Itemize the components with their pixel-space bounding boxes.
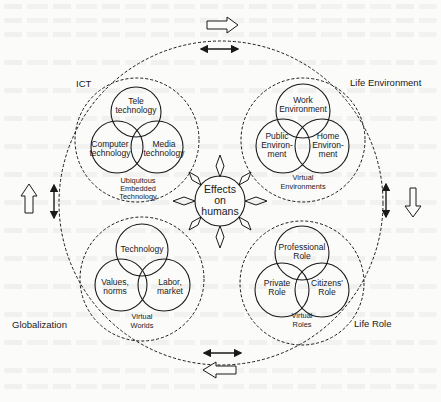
venn-label: Environment bbox=[279, 104, 327, 114]
venn-label: Role bbox=[268, 287, 286, 297]
ict-venn: Tele technology Computer technology Medi… bbox=[89, 87, 185, 201]
diamond-icon bbox=[245, 197, 267, 205]
venn-label: technology bbox=[143, 148, 185, 158]
flow-arrow-up-icon bbox=[21, 184, 37, 213]
venn-label: ment bbox=[268, 149, 288, 159]
venn-label: market bbox=[157, 286, 184, 296]
flow-arrow-down-icon bbox=[405, 188, 421, 217]
diamond-icon bbox=[189, 172, 201, 185]
label-globalization: Globalization bbox=[12, 319, 67, 330]
diamond-icon bbox=[216, 155, 224, 177]
venn-label: Role bbox=[318, 287, 336, 297]
globalization-venn: Technology Values, norms Labor, market V… bbox=[95, 224, 190, 330]
label-life-role: Life Role bbox=[354, 318, 392, 329]
diamond-icon bbox=[216, 226, 224, 248]
venn-label: Technology bbox=[120, 244, 164, 254]
center-label: humans bbox=[201, 205, 238, 217]
label-life-environment: Life Environment bbox=[350, 77, 422, 88]
group-footer: Environments bbox=[280, 182, 325, 191]
venn-label: Role bbox=[293, 251, 311, 261]
diamond-icon bbox=[239, 172, 251, 185]
diamond-icon bbox=[189, 217, 201, 230]
venn-label: technology bbox=[115, 105, 157, 115]
scanned-page: ICT Life Environment Globalization Life … bbox=[0, 0, 441, 402]
effects-on-humans-diagram: ICT Life Environment Globalization Life … bbox=[0, 0, 441, 402]
group-footer: Virtual bbox=[292, 311, 313, 320]
diamond-icon bbox=[239, 217, 251, 230]
venn-label: technology bbox=[89, 148, 131, 158]
venn-label: norms bbox=[103, 286, 127, 296]
life-role-venn: Professional Role Private Role Citizens'… bbox=[255, 226, 349, 329]
flow-arrow-right-icon bbox=[207, 17, 238, 33]
group-footer: Virtual bbox=[132, 312, 153, 321]
group-footer: Roles bbox=[293, 320, 312, 329]
life-environment-venn: Work Environment Public Environ- ment Ho… bbox=[256, 84, 349, 191]
group-footer: Technology bbox=[119, 192, 157, 201]
center-node: Effects on humans bbox=[195, 176, 245, 226]
venn-label: ment bbox=[319, 149, 339, 159]
label-ict: ICT bbox=[76, 78, 92, 89]
group-footer: Worlds bbox=[131, 321, 154, 330]
group-footer: Virtual bbox=[293, 173, 314, 182]
diamond-icon bbox=[173, 197, 195, 205]
